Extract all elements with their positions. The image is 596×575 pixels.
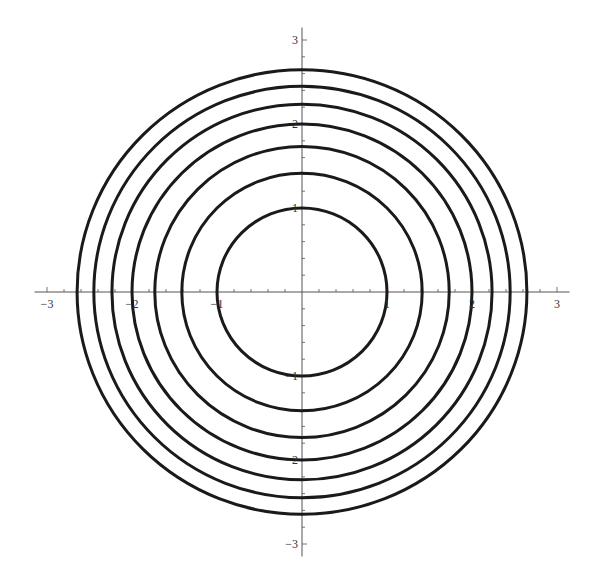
x-tick-label: −1 bbox=[211, 297, 224, 311]
y-tick-label: 2 bbox=[292, 117, 298, 131]
x-tick-label: 2 bbox=[469, 297, 475, 311]
x-tick-label: −3 bbox=[41, 297, 54, 311]
x-tick-label: −2 bbox=[126, 297, 139, 311]
x-tick-label: 3 bbox=[554, 297, 560, 311]
y-tick-label: 1 bbox=[292, 201, 298, 215]
y-tick-label: −1 bbox=[285, 369, 298, 383]
axes bbox=[35, 28, 570, 557]
x-tick-label: 1 bbox=[384, 297, 390, 311]
y-tick-label: −3 bbox=[285, 537, 298, 551]
contour-plot: −3−2−1123−3−2−1123 bbox=[0, 0, 596, 575]
y-tick-label: −2 bbox=[285, 453, 298, 467]
y-tick-label: 3 bbox=[292, 33, 298, 47]
